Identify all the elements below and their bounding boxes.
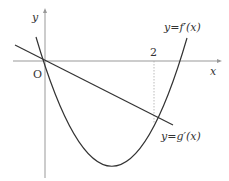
y-axis-label: y: [31, 11, 39, 24]
origin-label: O: [33, 68, 42, 81]
f-prime-curve: [36, 37, 187, 166]
g-prime-label: y=g′(x): [160, 130, 201, 143]
f-prime-label: y=f′(x): [163, 21, 201, 34]
x-axis-label: x: [210, 65, 217, 78]
graph: y x O 2 y=f′(x) y=g′(x): [0, 0, 229, 181]
x-axis-arrow-icon: [217, 59, 222, 63]
y-axis-arrow-icon: [43, 8, 47, 13]
tick-label-2: 2: [150, 46, 157, 59]
